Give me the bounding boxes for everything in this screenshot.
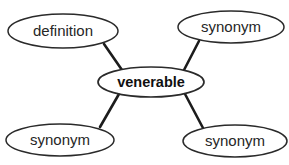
node-synonym-bottom-right[interactable]: synonym [183, 125, 287, 157]
synonym-bottom-left-label: synonym [30, 131, 90, 148]
node-synonym-top-right[interactable]: synonym [178, 11, 284, 43]
node-definition[interactable]: definition [8, 14, 118, 48]
node-synonym-bottom-left[interactable]: synonym [6, 124, 114, 156]
venerable-label: venerable [117, 74, 185, 90]
synonym-top-right-label: synonym [201, 18, 261, 35]
word-web-diagram: definition synonym venerable synonym syn… [0, 0, 289, 165]
edge-synonym-top-right-to-center [184, 41, 199, 70]
synonym-bottom-right-label: synonym [205, 132, 265, 149]
edge-synonym-bottom-right-to-center [185, 94, 203, 128]
node-center-venerable[interactable]: venerable [98, 67, 204, 97]
diagram-canvas: definition synonym venerable synonym syn… [0, 0, 289, 165]
definition-label: definition [33, 22, 93, 39]
edge-definition-to-center [104, 44, 122, 70]
edge-synonym-bottom-left-to-center [100, 94, 119, 127]
